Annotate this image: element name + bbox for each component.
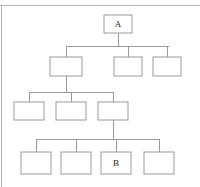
node-box-n8[interactable] — [21, 152, 51, 174]
tree-node-n9[interactable] — [61, 152, 91, 174]
node-label-n10: B — [113, 158, 119, 168]
diagram-canvas: AB — [0, 0, 200, 187]
tree-nodes: AB — [14, 15, 181, 174]
connector-lines — [29, 33, 169, 152]
tree-node-n7[interactable] — [98, 102, 128, 120]
node-label-n1: A — [115, 19, 122, 29]
tree-diagram: AB — [0, 0, 200, 187]
tree-node-n1[interactable]: A — [104, 15, 132, 33]
tree-node-n5[interactable] — [14, 102, 44, 120]
tree-node-n3[interactable] — [114, 57, 142, 76]
node-box-n5[interactable] — [14, 102, 44, 120]
node-box-n3[interactable] — [114, 57, 142, 76]
node-box-n7[interactable] — [98, 102, 128, 120]
node-box-n9[interactable] — [61, 152, 91, 174]
tree-node-n6[interactable] — [56, 102, 86, 120]
node-box-n6[interactable] — [56, 102, 86, 120]
tree-node-n2[interactable] — [50, 57, 82, 76]
node-box-n2[interactable] — [50, 57, 82, 76]
tree-node-n8[interactable] — [21, 152, 51, 174]
node-box-n4[interactable] — [153, 57, 181, 76]
tree-node-n4[interactable] — [153, 57, 181, 76]
node-box-n11[interactable] — [144, 152, 174, 174]
tree-node-n11[interactable] — [144, 152, 174, 174]
tree-node-n10[interactable]: B — [101, 152, 131, 174]
